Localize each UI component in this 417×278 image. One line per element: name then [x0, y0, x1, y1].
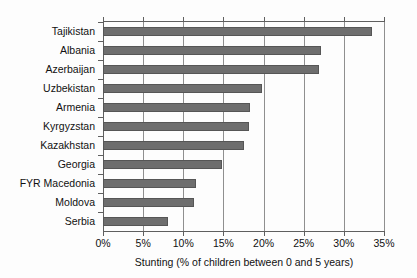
x-tick	[103, 231, 104, 236]
x-tick	[264, 231, 265, 236]
x-tick	[344, 231, 345, 236]
x-axis-title: Stunting (% of children between 0 and 5 …	[103, 256, 385, 268]
bar	[103, 84, 262, 93]
y-axis-category-labels: TajikistanAlbaniaAzerbaijanUzbekistanArm…	[0, 22, 98, 231]
bar	[103, 46, 321, 55]
category-label: Uzbekistan	[0, 83, 100, 94]
category-label: Kyrgyzstan	[0, 121, 100, 132]
x-tick-label: 5%	[136, 237, 151, 249]
category-label: Tajikistan	[0, 26, 100, 37]
category-label: Georgia	[0, 159, 100, 170]
bar	[103, 160, 222, 169]
x-tick	[183, 231, 184, 236]
category-label: Kazakhstan	[0, 140, 100, 151]
bar	[103, 217, 168, 226]
bar	[103, 179, 196, 188]
x-tick-label: 25%	[293, 237, 314, 249]
gridline	[344, 22, 345, 231]
bar	[103, 65, 319, 74]
x-tick-label: 10%	[173, 237, 194, 249]
x-tick	[143, 231, 144, 236]
x-tick-label: 0%	[95, 237, 110, 249]
x-tick	[384, 231, 385, 236]
x-tick-label: 30%	[333, 237, 354, 249]
bar	[103, 27, 372, 36]
bar	[103, 122, 249, 131]
bar	[103, 103, 250, 112]
x-tick	[304, 231, 305, 236]
bar-chart: TajikistanAlbaniaAzerbaijanUzbekistanArm…	[0, 0, 417, 278]
x-tick-label: 35%	[373, 237, 394, 249]
category-label: FYR Macedonia	[0, 178, 100, 189]
axis-line-bottom	[103, 231, 385, 232]
category-label: Azerbaijan	[0, 64, 100, 75]
category-label: Moldova	[0, 197, 100, 208]
x-tick	[223, 231, 224, 236]
bar	[103, 198, 194, 207]
category-label: Serbia	[0, 216, 100, 227]
x-tick-label: 15%	[213, 237, 234, 249]
category-label: Armenia	[0, 102, 100, 113]
gridline	[384, 22, 385, 231]
category-label: Albania	[0, 45, 100, 56]
bar	[103, 141, 244, 150]
plot-area	[103, 22, 384, 231]
x-tick-label: 20%	[253, 237, 274, 249]
